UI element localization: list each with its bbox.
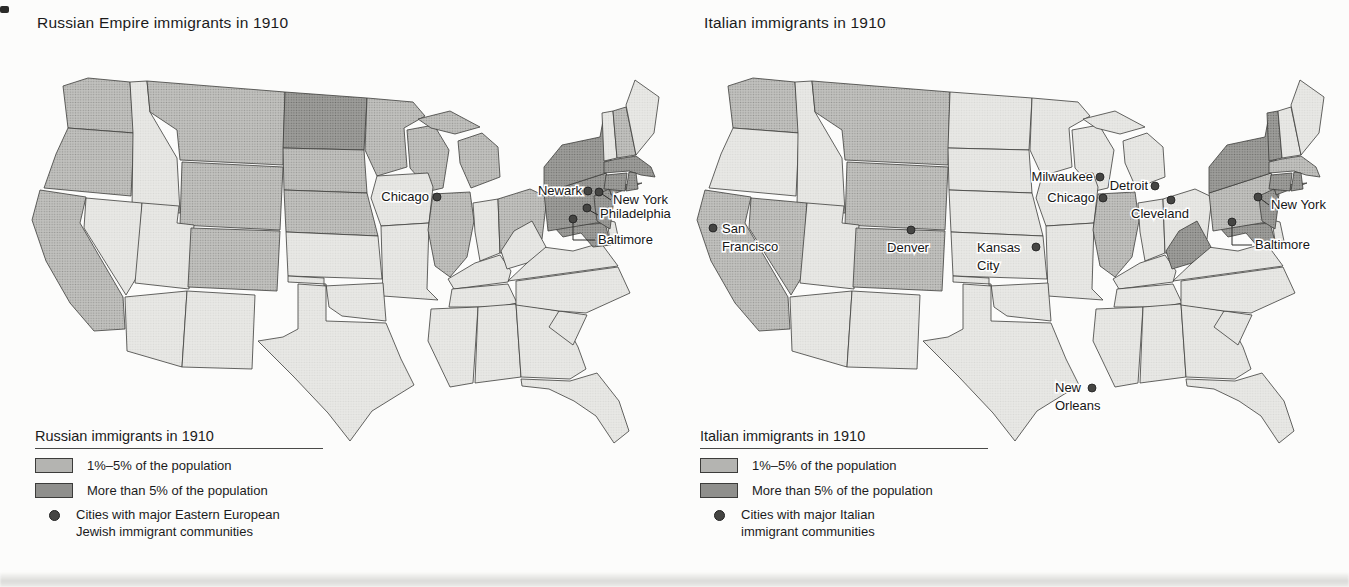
city-dot-newark: [584, 187, 592, 195]
city-dot-philadelphia: [583, 204, 591, 212]
state-wa: [728, 78, 799, 133]
swatch-over-5-icon: [35, 483, 73, 498]
city-dot-denver: [907, 226, 915, 234]
state-mi: [458, 133, 500, 188]
state-ct: [1269, 173, 1292, 191]
city-label-baltimore: Baltimore: [598, 232, 653, 247]
state-co: [853, 228, 945, 291]
city-dot-new_orleans: [1088, 384, 1096, 392]
state-wy: [180, 162, 283, 230]
city-label-detroit: Detroit: [1110, 178, 1149, 193]
legend-title: Italian immigrants in 1910: [700, 428, 988, 449]
state-nd: [948, 92, 1032, 150]
swatch-over-5-icon: [700, 483, 738, 498]
city-label-chicago: Chicago: [1047, 190, 1095, 205]
swatch-1-5-icon: [35, 458, 73, 473]
city-label-cleveland: Cleveland: [1131, 206, 1189, 221]
legend-item-label: 1%–5% of the population: [87, 458, 232, 475]
city-dot-san_francisco: [709, 224, 717, 232]
city-dot-chicago: [1099, 194, 1107, 202]
legend-item-1-5: 1%–5% of the population: [35, 458, 337, 475]
state-or: [709, 128, 799, 196]
city-label-denver: Denver: [887, 240, 930, 255]
state-ne: [949, 190, 1043, 236]
state-il: [1093, 192, 1139, 277]
italian-immigrants-map: MilwaukeeDetroitChicagoClevelandNew York…: [695, 70, 1345, 462]
swatch-1-5-icon: [700, 458, 738, 473]
legend-line: Jewish immigrant communities: [76, 524, 280, 541]
city-dot-kansas_city: [1032, 243, 1040, 251]
state-in: [473, 199, 500, 261]
legend-title: Russian immigrants in 1910: [35, 428, 323, 449]
legend-item-label: 1%–5% of the population: [752, 458, 897, 475]
city-dot-new_york: [595, 188, 603, 196]
state-ms: [428, 307, 478, 387]
city-dot-chicago: [433, 193, 441, 201]
state-al: [1140, 304, 1186, 383]
legend-line: Cities with major Eastern European: [76, 507, 280, 524]
legend-item-1-5: 1%–5% of the population: [700, 458, 1002, 475]
state-or: [44, 128, 134, 196]
legend-line: Cities with major Italian: [741, 507, 875, 524]
city-dot-detroit: [1151, 182, 1159, 190]
legend-item-cities: Cities with major Eastern European Jewis…: [35, 507, 337, 540]
state-wa: [63, 78, 134, 133]
city-label-milwaukee: Milwaukee: [1032, 169, 1093, 184]
state-wy: [845, 162, 948, 230]
city-label-new_york: New York: [613, 192, 668, 207]
legend-item-cities: Cities with major Italian immigrant comm…: [700, 507, 1002, 540]
state-nm: [847, 291, 920, 369]
legend-item-over-5: More than 5% of the population: [35, 483, 337, 500]
legend-item-label: Cities with major Eastern European Jewis…: [76, 507, 280, 540]
state-ri: [626, 172, 638, 191]
italian-map-title: Italian immigrants in 1910: [704, 14, 886, 32]
states-layer: [32, 78, 659, 443]
legend-line: immigrant communities: [741, 524, 875, 541]
scan-artifact-band: [0, 572, 1349, 587]
city-label-chicago: Chicago: [381, 189, 429, 204]
state-ks: [286, 232, 382, 279]
state-nd: [283, 92, 367, 150]
state-ct: [604, 173, 627, 191]
state-co: [188, 228, 280, 291]
city-dot-baltimore: [569, 215, 577, 223]
legend-item-over-5: More than 5% of the population: [700, 483, 1002, 500]
city-dot-milwaukee: [1096, 173, 1104, 181]
italian-legend: Italian immigrants in 1910 1%–5% of the …: [700, 428, 1002, 548]
state-ri: [1291, 172, 1303, 191]
city-label-philadelphia: Philadelphia: [600, 206, 672, 221]
city-label-newark: Newark: [538, 183, 583, 198]
scan-artifact-mark: [0, 6, 9, 13]
states-layer: [697, 78, 1324, 443]
russian-legend: Russian immigrants in 1910 1%–5% of the …: [35, 428, 337, 548]
state-fl: [1186, 373, 1294, 443]
russian-immigrants-map: ChicagoNewarkNew YorkPhiladelphiaBaltimo…: [30, 70, 680, 462]
city-dot-icon: [49, 510, 60, 521]
state-ms: [1093, 307, 1143, 387]
russian-map-title: Russian Empire immigrants in 1910: [37, 14, 288, 32]
state-il: [428, 192, 474, 277]
state-nm: [182, 291, 255, 369]
state-fl: [521, 373, 629, 443]
state-sd: [283, 148, 367, 193]
city-label-new_york: New York: [1271, 197, 1326, 212]
legend-item-label: More than 5% of the population: [752, 483, 933, 500]
state-az: [125, 291, 187, 367]
city-dot-baltimore: [1228, 218, 1236, 226]
legend-item-label: More than 5% of the population: [87, 483, 268, 500]
legend-item-label: Cities with major Italian immigrant comm…: [741, 507, 875, 540]
state-al: [475, 304, 521, 383]
state-az: [790, 291, 852, 367]
city-dot-icon: [714, 510, 725, 521]
city-dot-new_york: [1254, 193, 1262, 201]
city-label-baltimore: Baltimore: [1255, 237, 1310, 252]
city-dot-cleveland: [1167, 196, 1175, 204]
state-sd: [948, 148, 1032, 193]
state-ne: [284, 190, 378, 236]
